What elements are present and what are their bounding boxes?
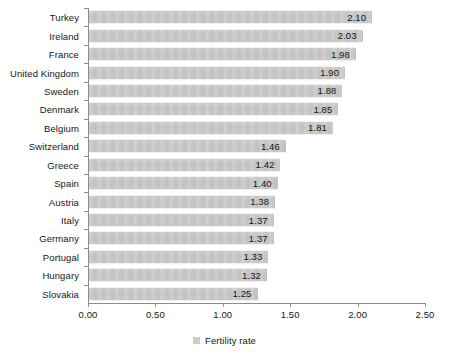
legend-swatch-icon (193, 337, 200, 344)
bar: 1.90 (89, 66, 345, 79)
category-label: United Kingdom (10, 67, 79, 78)
table-row: Turkey2.10 (88, 8, 425, 26)
y-axis-tick (84, 248, 88, 249)
y-axis-tick (84, 266, 88, 267)
table-row: Hungary1.32 (88, 266, 425, 284)
bar-value-label: 1.37 (249, 233, 268, 243)
x-axis-tick (358, 303, 359, 307)
bar: 1.98 (89, 48, 356, 61)
y-axis-tick (84, 137, 88, 138)
bar-value-label: 1.81 (308, 123, 327, 133)
y-axis-tick (84, 229, 88, 230)
table-row: Greece1.42 (88, 156, 425, 174)
bar: 2.03 (89, 29, 363, 42)
bar-value-label: 1.38 (250, 197, 269, 207)
bar: 1.37 (89, 214, 274, 227)
y-axis-tick (84, 8, 88, 9)
bar-value-label: 1.85 (313, 104, 332, 114)
y-axis-tick (84, 100, 88, 101)
bar: 1.25 (89, 287, 258, 300)
category-label: Portugal (43, 251, 79, 262)
table-row: Portugal1.33 (88, 248, 425, 266)
bar: 2.10 (89, 11, 372, 24)
x-axis-tick (425, 303, 426, 307)
y-axis-tick (84, 82, 88, 83)
chart-legend: Fertility rate (0, 335, 449, 346)
bar-fill (89, 66, 345, 79)
x-axis-tick-label: 2.50 (416, 309, 435, 320)
x-axis-tick (88, 303, 89, 307)
category-label: Spain (54, 178, 79, 189)
bar: 1.85 (89, 103, 338, 116)
bar: 1.42 (89, 158, 280, 171)
category-label: Sweden (44, 85, 79, 96)
bar-fill (89, 158, 280, 171)
y-axis-tick (84, 119, 88, 120)
bar: 1.40 (89, 177, 278, 190)
x-axis-tick (223, 303, 224, 307)
y-axis-tick (84, 211, 88, 212)
bar: 1.46 (89, 140, 286, 153)
category-label: Slovakia (42, 288, 79, 299)
table-row: Germany1.37 (88, 229, 425, 247)
x-axis-tick (290, 303, 291, 307)
bar-value-label: 1.90 (320, 68, 339, 78)
x-axis-tick-label: 1.00 (213, 309, 232, 320)
y-axis-tick (84, 45, 88, 46)
y-axis-tick (84, 156, 88, 157)
table-row: Ireland2.03 (88, 26, 425, 44)
category-label: Switzerland (29, 141, 79, 152)
bar-rows: Turkey2.10Ireland2.03France1.98United Ki… (88, 8, 425, 303)
bar-value-label: 1.25 (233, 289, 252, 299)
x-axis-tick (155, 303, 156, 307)
category-label: Greece (47, 159, 79, 170)
legend-label: Fertility rate (205, 335, 256, 346)
x-axis-tick-label: 1.50 (281, 309, 300, 320)
category-label: Denmark (40, 104, 79, 115)
bar-fill (89, 121, 333, 134)
category-label: Turkey (50, 12, 79, 23)
bar-value-label: 1.46 (261, 141, 280, 151)
bar-fill (89, 11, 372, 24)
y-axis-tick (84, 174, 88, 175)
bar-fill (89, 269, 267, 282)
bar-fill (89, 48, 356, 61)
legend-item-fertility-rate: Fertility rate (193, 335, 256, 346)
bar-value-label: 1.37 (249, 215, 268, 225)
y-axis-tick (84, 192, 88, 193)
table-row: France1.98 (88, 45, 425, 63)
table-row: Denmark1.85 (88, 100, 425, 118)
bar-fill (89, 250, 268, 263)
table-row: Italy1.37 (88, 211, 425, 229)
category-label: Ireland (49, 30, 79, 41)
bar: 1.88 (89, 84, 342, 97)
bar-value-label: 1.88 (318, 86, 337, 96)
fertility-rate-bar-chart: Turkey2.10Ireland2.03France1.98United Ki… (0, 0, 449, 360)
y-axis-tick (84, 285, 88, 286)
bar-fill (89, 84, 342, 97)
bar-fill (89, 140, 286, 153)
bar-fill (89, 103, 338, 116)
category-label: France (49, 49, 79, 60)
x-axis-tick-label: 2.00 (348, 309, 367, 320)
category-label: Italy (61, 215, 79, 226)
category-label: Belgium (44, 122, 79, 133)
bar: 1.37 (89, 232, 274, 245)
bar: 1.38 (89, 195, 275, 208)
category-label: Hungary (42, 270, 79, 281)
category-label: Germany (39, 233, 79, 244)
bar-fill (89, 232, 274, 245)
bar-value-label: 1.40 (253, 178, 272, 188)
table-row: Austria1.38 (88, 192, 425, 210)
category-label: Austria (49, 196, 79, 207)
x-axis-tick-label: 0.00 (79, 309, 98, 320)
bar-fill (89, 214, 274, 227)
bar-value-label: 1.98 (331, 49, 350, 59)
y-axis-tick (84, 63, 88, 64)
bar-fill (89, 177, 278, 190)
table-row: United Kingdom1.90 (88, 63, 425, 81)
table-row: Belgium1.81 (88, 119, 425, 137)
bar-fill (89, 195, 275, 208)
table-row: Sweden1.88 (88, 82, 425, 100)
bar: 1.32 (89, 269, 267, 282)
